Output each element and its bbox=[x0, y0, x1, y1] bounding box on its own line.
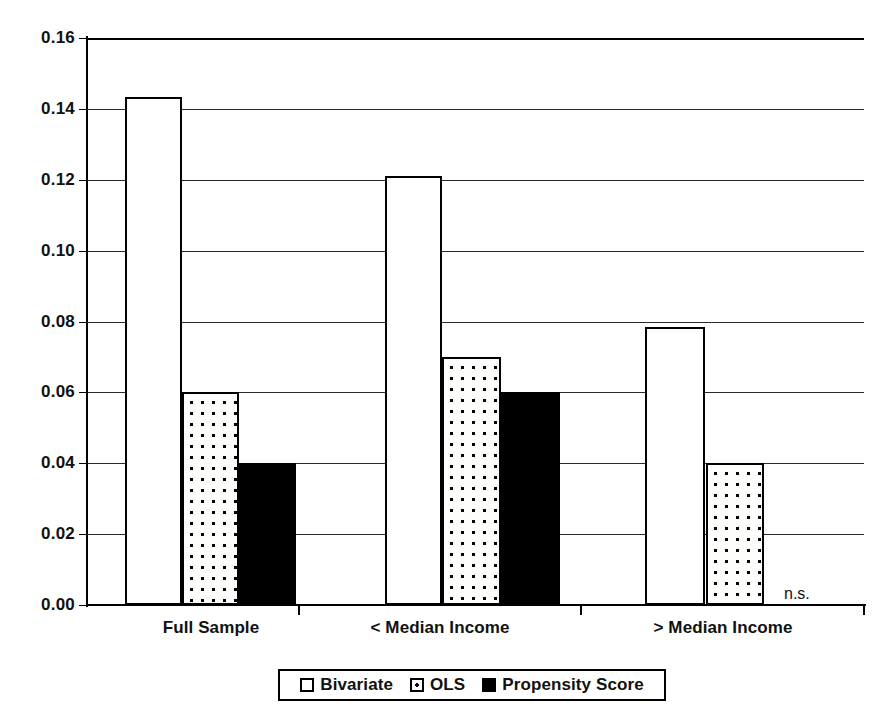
bar-full-sample-bivariate[interactable] bbox=[125, 97, 182, 606]
y-axis-label-0.06: 0.06 bbox=[41, 382, 75, 402]
y-tick-mark-0.00 bbox=[79, 605, 86, 606]
legend-entry-propensity-score[interactable]: Propensity Score bbox=[482, 675, 643, 695]
plot-area: 0.16 0.14 0.12 0.10 0.08 0.06 0.04 bbox=[86, 38, 864, 605]
x-axis-category-label-full-sample: Full Sample bbox=[163, 618, 260, 638]
y-tick-mark-0.04 bbox=[79, 463, 86, 464]
y-axis-label-0.02: 0.02 bbox=[41, 524, 75, 544]
legend-label-propensity-score: Propensity Score bbox=[502, 675, 643, 695]
y-tick-mark-0.02 bbox=[79, 534, 86, 535]
y-axis-label-0.12: 0.12 bbox=[41, 170, 75, 190]
y-tick-mark-0.12 bbox=[79, 180, 86, 181]
y-tick-mark-0.16 bbox=[79, 38, 86, 39]
bar-above-median-income-ols[interactable] bbox=[706, 463, 764, 605]
legend-entry-ols[interactable]: OLS bbox=[410, 675, 465, 695]
bar-below-median-income-ols[interactable] bbox=[442, 357, 501, 605]
y-axis-label-0.04: 0.04 bbox=[41, 453, 75, 473]
bar-full-sample-ols[interactable] bbox=[182, 392, 239, 605]
bar-above-median-income-bivariate[interactable] bbox=[645, 327, 705, 605]
gridline-0.16: 0.16 bbox=[86, 38, 864, 40]
y-axis-label-0.08: 0.08 bbox=[41, 312, 75, 332]
gridline-0.14: 0.14 bbox=[86, 109, 864, 110]
y-axis-label-0.00: 0.00 bbox=[41, 595, 75, 615]
x-axis-tick-1 bbox=[298, 605, 300, 615]
legend-label-bivariate: Bivariate bbox=[320, 675, 393, 695]
y-tick-mark-0.06 bbox=[79, 392, 86, 393]
bar-below-median-income-propensity-score[interactable] bbox=[501, 392, 560, 605]
x-axis-tick-2 bbox=[580, 605, 582, 615]
bar-chart-figure: 0.16 0.14 0.12 0.10 0.08 0.06 0.04 bbox=[0, 0, 884, 727]
y-tick-mark-0.14 bbox=[79, 109, 86, 110]
legend-swatch-bivariate-icon bbox=[300, 678, 314, 692]
x-axis-category-label-above-median-income: > Median Income bbox=[654, 618, 793, 638]
gridline-0.08: 0.08 bbox=[86, 322, 864, 323]
gridline-0.12: 0.12 bbox=[86, 180, 864, 181]
y-axis-label-0.14: 0.14 bbox=[41, 99, 75, 119]
x-axis-category-label-below-median-income: < Median Income bbox=[371, 618, 510, 638]
not-significant-annotation: n.s. bbox=[784, 585, 810, 603]
legend-label-ols: OLS bbox=[430, 675, 465, 695]
legend-swatch-ols-icon bbox=[410, 678, 424, 692]
y-axis-line bbox=[86, 36, 88, 607]
x-axis-line bbox=[86, 604, 866, 606]
y-tick-mark-0.08 bbox=[79, 322, 86, 323]
x-axis-tick-3 bbox=[863, 605, 865, 615]
bar-below-median-income-bivariate[interactable] bbox=[385, 176, 442, 605]
legend-entry-bivariate[interactable]: Bivariate bbox=[300, 675, 393, 695]
y-axis-label-0.16: 0.16 bbox=[41, 28, 75, 48]
y-axis-label-0.10: 0.10 bbox=[41, 241, 75, 261]
y-tick-mark-0.10 bbox=[79, 251, 86, 252]
gridline-0.10: 0.10 bbox=[86, 251, 864, 252]
legend-swatch-propensity-score-icon bbox=[482, 678, 496, 692]
bar-full-sample-propensity-score[interactable] bbox=[239, 463, 296, 605]
chart-legend: Bivariate OLS Propensity Score bbox=[278, 669, 666, 701]
